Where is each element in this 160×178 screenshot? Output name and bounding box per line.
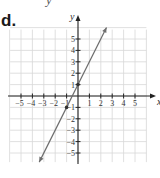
- y-tick-label: −5: [66, 149, 75, 158]
- x-tick-label: 1: [87, 99, 91, 108]
- axes: xy: [8, 11, 160, 164]
- x-tick-label: 2: [99, 99, 103, 108]
- x-tick-label: 3: [110, 99, 114, 108]
- y-axis-label: y: [69, 11, 75, 22]
- y-tick-label: 5: [71, 35, 75, 44]
- y-tick-label: 2: [71, 69, 75, 78]
- x-tick-label: −4: [27, 99, 36, 108]
- y-tick-label: 4: [71, 46, 75, 55]
- y-axis-arrow-icon: [76, 15, 81, 21]
- coordinate-plane-chart: xy −5−4−3−2−11234554321−1−2−3−4−5: [0, 0, 160, 178]
- y-tick-label: −3: [66, 126, 75, 135]
- y-tick-label: 3: [71, 58, 75, 67]
- x-tick-label: 4: [122, 99, 126, 108]
- x-axis-label: x: [156, 96, 160, 107]
- x-tick-label: 5: [133, 99, 137, 108]
- y-tick-label: −2: [66, 115, 75, 124]
- marked-point: [76, 83, 80, 87]
- y-tick-label: 1: [71, 81, 75, 90]
- y-tick-label: −4: [66, 138, 75, 147]
- x-tick-label: −2: [49, 99, 58, 108]
- x-axis-arrow-icon: [150, 94, 156, 99]
- marked-point: [65, 106, 69, 110]
- x-tick-label: −5: [15, 99, 24, 108]
- x-tick-label: −3: [38, 99, 47, 108]
